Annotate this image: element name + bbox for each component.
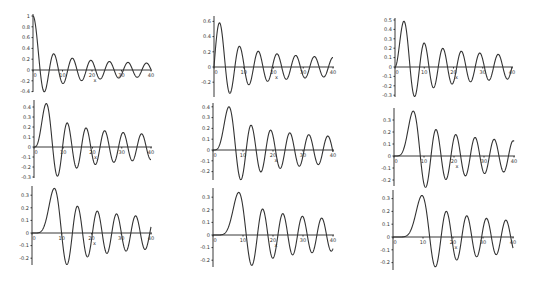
y-tick-label: 0 [28, 144, 31, 150]
y-tick-label: 0.2 [23, 124, 31, 130]
bessel-j7-plot: 0.30.20.10-0.1-0.2010203040x [200, 188, 336, 267]
bessel-curve [32, 188, 151, 264]
y-tick-label: -0.3 [382, 92, 392, 98]
bessel-j5-plot: 0.30.20.10-0.1-0.2010203040x [381, 108, 517, 187]
y-tick-label: 0.2 [22, 56, 30, 62]
y-tick-label: 0.2 [202, 125, 210, 131]
y-tick-label: -0.1 [380, 247, 390, 253]
y-tick-label: 0 [207, 147, 210, 153]
y-tick-label: 0.4 [203, 33, 211, 39]
bessel-curve [393, 195, 513, 266]
y-tick-label: 0 [388, 153, 391, 159]
y-tick-label: 0.2 [21, 205, 29, 211]
x-tick-label: 40 [330, 69, 336, 75]
y-tick-label: -0.1 [200, 158, 210, 164]
y-tick-label: 0.4 [23, 104, 31, 110]
bessel-curve [213, 192, 333, 265]
y-tick-label: -0.2 [381, 177, 391, 183]
y-tick-label: 0 [387, 234, 390, 240]
x-tick-label: 10 [60, 149, 66, 155]
x-tick-label: 0 [394, 158, 397, 164]
y-tick-label: 0.3 [21, 192, 29, 198]
y-tick-label: 0.1 [23, 134, 31, 140]
y-tick-label: 0.1 [382, 221, 390, 227]
x-tick-label: 0 [393, 239, 396, 245]
y-tick-label: 0.1 [21, 217, 29, 223]
y-tick-label: -0.2 [20, 78, 30, 84]
x-tick-label: 0 [34, 149, 37, 155]
y-tick-label: 0.4 [202, 104, 210, 110]
bessel-j8-plot: 0.30.20.10-0.1-0.2010203040x [380, 190, 516, 270]
y-tick-label: 0.3 [383, 117, 391, 123]
y-tick-label: -0.2 [380, 259, 390, 265]
y-tick-label: 0.1 [202, 219, 210, 225]
y-tick-label: 0.6 [203, 18, 211, 24]
y-tick-label: 0.2 [384, 45, 392, 51]
bessel-j4-plot: 0.40.30.20.10-0.1-0.2010203040x [200, 103, 336, 180]
y-tick-label: -0.2 [200, 257, 210, 263]
y-tick-label: 0.2 [382, 208, 390, 214]
x-tick-label: 0 [33, 72, 36, 78]
x-tick-label: 0 [395, 69, 398, 75]
x-tick-label: 40 [148, 149, 154, 155]
x-tick-label: 40 [511, 158, 517, 164]
y-tick-label: 0.1 [383, 141, 391, 147]
x-tick-label: 0 [213, 152, 216, 158]
y-tick-label: 0.3 [23, 114, 31, 120]
y-tick-label: 1 [27, 13, 30, 19]
x-tick-label: 40 [330, 152, 336, 158]
y-tick-label: 0.2 [203, 49, 211, 55]
x-tick-label: 30 [119, 149, 125, 155]
y-tick-label: -0.4 [20, 88, 30, 94]
y-tick-label: -0.3 [21, 174, 31, 180]
bessel-curve [214, 23, 333, 94]
y-tick-label: 0.2 [383, 129, 391, 135]
x-tick-label: 0 [214, 69, 217, 75]
y-tick-label: -0.2 [19, 255, 29, 261]
x-axis-label: x [455, 244, 458, 250]
y-tick-label: 0.1 [384, 54, 392, 60]
bessel-j2-plot: 0.50.40.30.20.10-0.1-0.2-0.3010203040x [382, 17, 515, 98]
x-axis-label: x [94, 77, 97, 83]
y-tick-label: -0.1 [382, 73, 392, 79]
x-tick-label: 10 [420, 239, 426, 245]
x-tick-label: 40 [148, 72, 154, 78]
x-tick-label: 30 [118, 235, 124, 241]
y-tick-label: 0.3 [382, 195, 390, 201]
x-tick-label: 30 [481, 158, 487, 164]
x-axis-label: x [93, 240, 96, 246]
y-tick-label: 0.6 [22, 34, 30, 40]
y-tick-label: 0.5 [384, 17, 392, 23]
y-tick-label: 0.4 [22, 45, 30, 51]
x-axis-label: x [456, 163, 459, 169]
x-tick-label: 10 [421, 158, 427, 164]
bessel-j6-plot: 0.30.20.10-0.1-0.2010203040x [19, 186, 154, 265]
bessel-curve [395, 21, 512, 96]
y-tick-label: -0.1 [21, 154, 31, 160]
y-tick-label: 0.1 [202, 136, 210, 142]
x-tick-label: 10 [421, 69, 427, 75]
y-tick-label: -0.1 [200, 244, 210, 250]
bessel-j1-plot: 0.60.40.20-0.2010203040x [201, 16, 336, 97]
bessel-curve [394, 111, 514, 187]
y-tick-label: 0.3 [384, 36, 392, 42]
bessel-curve [213, 107, 333, 180]
y-tick-label: 0.2 [202, 207, 210, 213]
x-tick-label: 30 [300, 237, 306, 243]
y-tick-label: 0.3 [202, 114, 210, 120]
x-tick-label: 40 [330, 237, 336, 243]
y-tick-label: -0.2 [21, 164, 31, 170]
y-tick-label: 0.3 [202, 194, 210, 200]
bessel-curve [33, 16, 151, 92]
y-tick-label: -0.1 [381, 165, 391, 171]
x-axis-label: x [275, 74, 278, 80]
x-tick-label: 0 [32, 235, 35, 241]
bessel-function-grid: 10.80.60.40.20-0.2-0.4010203040x0.60.40.… [0, 0, 536, 284]
y-tick-label: 0 [208, 64, 211, 70]
bessel-j3-plot: 0.40.30.20.10-0.1-0.2-0.3010203040x [21, 100, 154, 180]
bessel-j0-plot: 10.80.60.40.20-0.2-0.4010203040x [20, 13, 154, 95]
y-tick-label: 0.4 [384, 26, 392, 32]
y-tick-label: 0 [27, 67, 30, 73]
y-tick-label: -0.1 [19, 242, 29, 248]
x-tick-label: 10 [240, 237, 246, 243]
